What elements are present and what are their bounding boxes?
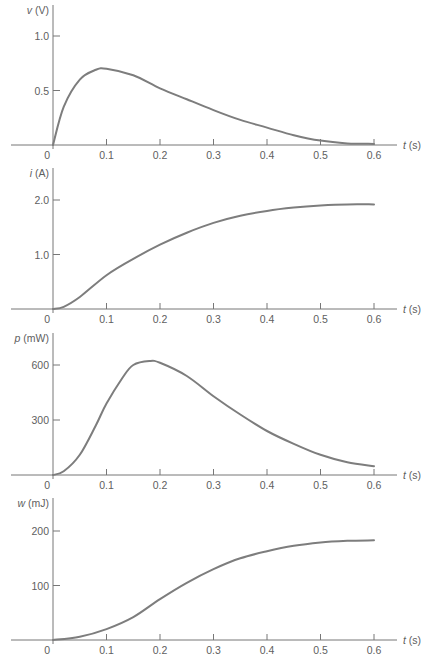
power-chart: 00.10.20.30.40.50.6300600p (mW)t (s) (11, 332, 421, 491)
y-tick-label: 2.0 (34, 194, 49, 206)
x-tick-label: 0.3 (206, 149, 221, 161)
energy-chart: 00.10.20.30.40.50.6100200w (mJ)t (s) (11, 497, 421, 656)
x-tick-label: 0.6 (367, 479, 382, 491)
x-tick-label: 0.6 (367, 149, 382, 161)
x-tick-label: 0.2 (153, 644, 168, 656)
x-tick-label: 0.6 (367, 313, 382, 325)
x-tick-label: 0.2 (153, 313, 168, 325)
y-tick-label: 1.0 (34, 249, 49, 261)
x-tick-label: 0.3 (206, 479, 221, 491)
x-tick-label: 0.4 (260, 644, 275, 656)
y-tick-label: 200 (31, 525, 49, 537)
y-tick-label: 300 (31, 414, 49, 426)
x-tick-label: 0.4 (260, 479, 275, 491)
x-tick-label: 0 (44, 479, 50, 491)
x-tick-label: 0.1 (99, 644, 114, 656)
x-tick-label: 0.6 (367, 644, 382, 656)
x-axis-label: t (s) (403, 303, 421, 315)
x-axis-label: t (s) (403, 469, 421, 481)
voltage-chart: 00.10.20.30.40.50.60.51.0v (V)t (s) (11, 4, 421, 161)
y-axis-label: w (mJ) (18, 497, 50, 509)
energy-curve (53, 540, 374, 640)
power-curve (53, 361, 374, 475)
x-tick-label: 0.5 (313, 479, 328, 491)
x-tick-label: 0.5 (313, 644, 328, 656)
y-axis-label: p (mW) (14, 332, 49, 344)
y-tick-label: 1.0 (34, 30, 49, 42)
x-tick-label: 0.4 (260, 149, 275, 161)
x-tick-label: 0 (44, 644, 50, 656)
y-axis-label: i (A) (30, 167, 49, 179)
x-tick-label: 0.3 (206, 644, 221, 656)
x-tick-label: 0.1 (99, 149, 114, 161)
x-tick-label: 0.3 (206, 313, 221, 325)
y-axis-label: v (V) (27, 4, 49, 16)
x-tick-label: 0.1 (99, 479, 114, 491)
x-tick-label: 0.4 (260, 313, 275, 325)
x-tick-label: 0.1 (99, 313, 114, 325)
x-tick-label: 0.5 (313, 149, 328, 161)
x-tick-label: 0.2 (153, 479, 168, 491)
current-chart: 00.10.20.30.40.50.61.02.0i (A)t (s) (11, 167, 421, 325)
voltage-curve (53, 68, 374, 145)
x-tick-label: 0 (44, 313, 50, 325)
x-axis-label: t (s) (403, 634, 421, 646)
x-axis-label: t (s) (403, 139, 421, 151)
x-tick-label: 0.5 (313, 313, 328, 325)
x-tick-label: 0.2 (153, 149, 168, 161)
x-tick-label: 0 (44, 149, 50, 161)
y-tick-label: 100 (31, 580, 49, 592)
y-tick-label: 0.5 (34, 85, 49, 97)
chart-stack: 00.10.20.30.40.50.60.51.0v (V)t (s)00.10… (0, 0, 431, 668)
current-curve (53, 204, 374, 309)
y-tick-label: 600 (31, 359, 49, 371)
